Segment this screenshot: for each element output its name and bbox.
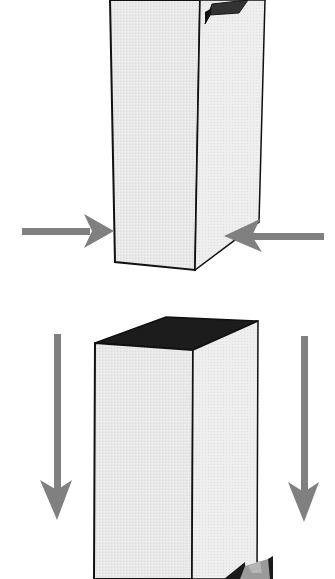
arrow-right-icon xyxy=(22,214,114,248)
top-prism-front-face xyxy=(110,0,200,270)
diagram-canvas xyxy=(0,0,335,579)
bottom-prism xyxy=(94,317,258,579)
bottom-prism-side-face xyxy=(192,321,258,579)
bottom-prism-front-face xyxy=(94,343,193,579)
arrow-down-left-icon xyxy=(40,334,72,520)
arrow-down-right-icon xyxy=(288,336,319,522)
